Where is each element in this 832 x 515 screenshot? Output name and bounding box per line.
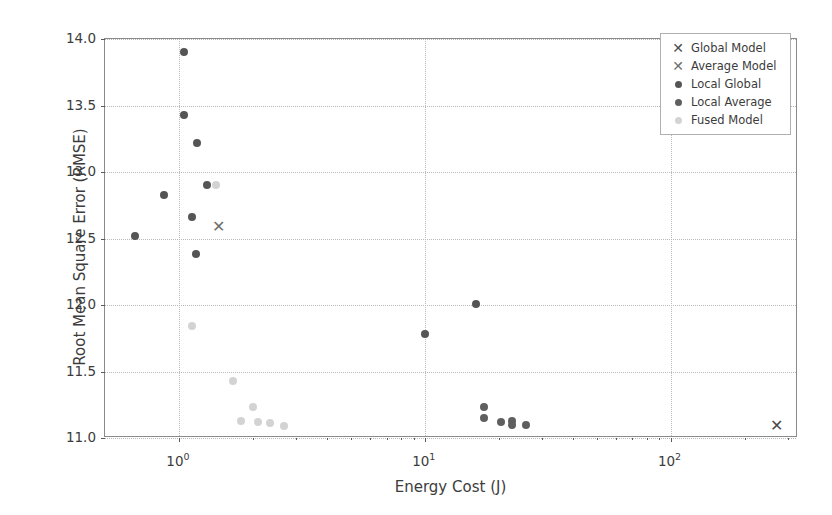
x-axis-minor-tick [745, 438, 746, 440]
y-axis-tick-label: 12.0 [50, 296, 96, 312]
gridline-horizontal [105, 438, 796, 439]
legend-item-label: Fused Model [691, 113, 763, 127]
x-axis-tick-label: 102 [658, 451, 681, 469]
data-point-circle [522, 421, 530, 429]
x-axis-tick [425, 438, 426, 442]
y-axis-tick-label: 11.0 [50, 429, 96, 445]
legend-item-label: Average Model [691, 59, 776, 73]
x-axis-minor-tick [597, 438, 598, 440]
x-axis-minor-tick [542, 438, 543, 440]
x-axis-tick-label: 101 [412, 451, 435, 469]
y-axis-tick [101, 305, 105, 306]
data-point-circle [193, 139, 201, 147]
gridline-horizontal [105, 305, 796, 306]
x-axis-minor-tick [616, 438, 617, 440]
y-axis-tick-label: 14.0 [50, 30, 96, 46]
data-point-circle [480, 414, 488, 422]
data-point-circle [237, 417, 245, 425]
data-point-circle [180, 111, 188, 119]
legend-item: ✕Global Model [665, 39, 784, 57]
y-axis-tick [101, 239, 105, 240]
legend-item-label: Global Model [691, 41, 766, 55]
y-axis-tick [101, 372, 105, 373]
x-axis-minor-tick [253, 438, 254, 440]
x-axis-minor-tick [370, 438, 371, 440]
gridline-vertical [179, 39, 180, 436]
x-axis-tick-label: 100 [166, 451, 189, 469]
data-point-circle [497, 418, 505, 426]
data-point-circle [480, 403, 488, 411]
legend-item: Local Average [665, 93, 784, 111]
y-axis-tick [101, 438, 105, 439]
data-point-circle [131, 232, 139, 240]
x-axis-minor-tick [387, 438, 388, 440]
x-axis-minor-tick [414, 438, 415, 440]
x-axis-minor-tick [647, 438, 648, 440]
x-axis-minor-tick [632, 438, 633, 440]
gridline-horizontal [105, 239, 796, 240]
data-point-circle [508, 421, 516, 429]
scatter-plot-figure: Root Mean Square Error (RMSE) Energy Cos… [0, 0, 832, 515]
x-axis-tick [671, 438, 672, 442]
data-point-circle [472, 300, 480, 308]
data-point-circle [188, 322, 196, 330]
x-axis-minor-tick [327, 438, 328, 440]
legend-item: Local Global [665, 75, 784, 93]
data-point-circle [229, 377, 237, 385]
circle-marker-icon [675, 99, 682, 106]
data-point-circle [212, 181, 220, 189]
legend-circle-marker-icon [665, 99, 691, 106]
x-axis-tick [179, 438, 180, 442]
legend-x-marker-icon: ✕ [665, 59, 691, 73]
x-marker-icon: ✕ [672, 59, 684, 73]
legend-item-label: Local Average [691, 95, 772, 109]
legend-item: Fused Model [665, 111, 784, 129]
gridline-horizontal [105, 172, 796, 173]
y-axis-tick-label: 13.0 [50, 163, 96, 179]
x-axis-minor-tick [573, 438, 574, 440]
data-point-circle [280, 422, 288, 430]
x-axis-minor-tick [401, 438, 402, 440]
data-point-circle [180, 48, 188, 56]
data-point-circle [421, 330, 429, 338]
y-axis-tick [101, 106, 105, 107]
legend-circle-marker-icon [665, 81, 691, 88]
y-axis-tick-label: 13.5 [50, 97, 96, 113]
x-axis-minor-tick [788, 438, 789, 440]
y-axis-tick [101, 172, 105, 173]
gridline-horizontal [105, 372, 796, 373]
data-point-circle [254, 418, 262, 426]
data-point-circle [160, 191, 168, 199]
data-point-x-marker: ✕ [770, 418, 783, 434]
circle-marker-icon [675, 117, 682, 124]
circle-marker-icon [675, 81, 682, 88]
x-axis-minor-tick [659, 438, 660, 440]
data-point-circle [188, 213, 196, 221]
x-axis-minor-tick [499, 438, 500, 440]
x-axis-label: Energy Cost (J) [104, 478, 797, 496]
legend-x-marker-icon: ✕ [665, 41, 691, 55]
data-point-x-marker: ✕ [212, 219, 225, 235]
y-axis-tick [101, 39, 105, 40]
data-point-circle [203, 181, 211, 189]
legend-item-label: Local Global [691, 77, 761, 91]
y-axis-label-container: Root Mean Square Error (RMSE) [30, 0, 50, 515]
legend-item: ✕Average Model [665, 57, 784, 75]
data-point-circle [249, 403, 257, 411]
legend: ✕Global Model✕Average ModelLocal GlobalL… [660, 33, 791, 135]
x-marker-icon: ✕ [672, 41, 684, 55]
data-point-circle [192, 250, 200, 258]
y-axis-tick-label: 11.5 [50, 363, 96, 379]
legend-circle-marker-icon [665, 117, 691, 124]
data-point-circle [266, 419, 274, 427]
gridline-vertical [425, 39, 426, 436]
x-axis-minor-tick [296, 438, 297, 440]
x-axis-minor-tick [351, 438, 352, 440]
y-axis-tick-label: 12.5 [50, 230, 96, 246]
